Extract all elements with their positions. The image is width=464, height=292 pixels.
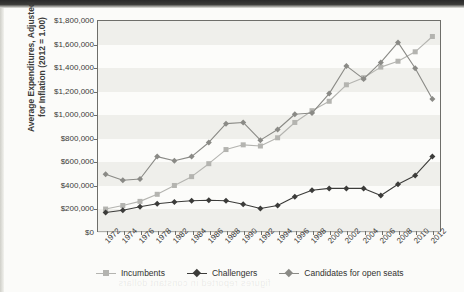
data-point-marker	[189, 174, 194, 179]
data-point-marker	[412, 65, 418, 71]
data-point-marker	[223, 198, 229, 204]
series-line	[106, 157, 433, 213]
expenditures-line-chart: representative expenditure comparisonthe…	[0, 0, 464, 292]
data-point-marker	[292, 120, 297, 125]
legend-label: Candidates for open seats	[304, 268, 403, 278]
series-layer	[0, 0, 464, 292]
data-point-marker	[206, 161, 211, 166]
data-point-marker	[275, 135, 280, 140]
data-point-marker	[396, 59, 401, 64]
data-point-marker	[120, 207, 126, 213]
data-point-marker	[429, 96, 435, 102]
data-point-marker	[326, 185, 332, 191]
data-point-marker	[275, 203, 281, 209]
data-point-marker	[120, 177, 126, 183]
data-point-marker	[155, 192, 160, 197]
data-point-marker	[361, 185, 367, 191]
series-incumbents	[103, 34, 435, 212]
series-candidates-for-open-seats	[103, 39, 436, 183]
legend-marker-icon	[187, 269, 207, 277]
legend-item-candidates-for-open-seats[interactable]: Candidates for open seats	[279, 268, 403, 278]
data-point-marker	[344, 82, 349, 87]
data-point-marker	[378, 192, 384, 198]
data-point-marker	[154, 201, 160, 207]
series-line	[106, 42, 433, 180]
data-point-marker	[138, 199, 143, 204]
data-point-marker	[257, 205, 263, 211]
data-point-marker	[343, 185, 349, 191]
data-point-marker	[240, 201, 246, 207]
data-point-marker	[413, 49, 418, 54]
data-point-marker	[171, 158, 177, 164]
data-point-marker	[258, 144, 263, 149]
data-point-marker	[172, 183, 177, 188]
legend-marker-icon	[96, 269, 116, 277]
data-point-marker	[224, 147, 229, 152]
data-point-marker	[395, 181, 401, 187]
data-point-marker	[171, 199, 177, 205]
legend-marker-icon	[279, 269, 299, 277]
data-point-marker	[189, 198, 195, 204]
data-point-marker	[430, 34, 435, 39]
chart-legend: IncumbentsChallengersCandidates for open…	[96, 268, 456, 278]
data-point-marker	[292, 194, 298, 200]
data-point-marker	[309, 187, 315, 193]
legend-label: Challengers	[212, 268, 257, 278]
legend-item-challengers[interactable]: Challengers	[187, 268, 257, 278]
data-point-marker	[327, 99, 332, 104]
data-point-marker	[206, 197, 212, 203]
legend-label: Incumbents	[121, 268, 165, 278]
data-point-marker	[103, 171, 109, 177]
data-point-marker	[137, 204, 143, 210]
legend-item-incumbents[interactable]: Incumbents	[96, 268, 165, 278]
data-point-marker	[241, 142, 246, 147]
